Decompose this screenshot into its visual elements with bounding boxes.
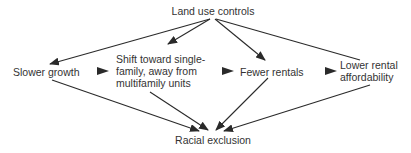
node-label: Racial exclusion — [175, 134, 251, 146]
node-label: Fewer rentals — [240, 66, 304, 78]
node-fewer-rentals: Fewer rentals — [240, 66, 304, 78]
node-slower-growth: Slower growth — [13, 66, 80, 78]
arrowhead-fewer-to-lower — [325, 67, 337, 75]
edge-controls-to-lower-affordability — [216, 19, 360, 60]
arrowhead-shift-to-fewer — [222, 67, 234, 75]
node-shift-single-family: Shift toward single- family, away from m… — [116, 53, 205, 89]
node-label: Slower growth — [13, 66, 80, 78]
edge-controls-to-shift — [168, 19, 210, 44]
node-label-line-2: family, away from — [116, 65, 205, 77]
arrowhead-slower-to-shift — [97, 67, 109, 75]
node-label-line-3: multifamily units — [116, 77, 205, 89]
node-label: Land use controls — [172, 5, 255, 17]
node-lower-rental-affordability: Lower rental affordability — [340, 59, 398, 83]
node-label-line-1: Lower rental — [340, 59, 398, 71]
edge-controls-to-fewer-rentals — [215, 19, 265, 60]
edge-fewer-rentals-to-exclusion — [216, 78, 268, 130]
edge-lower-affordability-to-exclusion — [224, 85, 370, 131]
node-label-line-1: Shift toward single- — [116, 53, 205, 65]
node-label-line-2: affordability — [340, 71, 398, 83]
node-racial-exclusion: Racial exclusion — [163, 134, 263, 146]
node-land-use-controls: Land use controls — [163, 5, 263, 17]
